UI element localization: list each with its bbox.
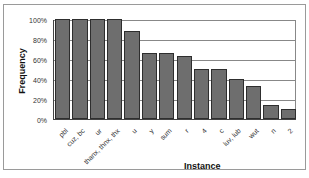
y-tick-label: 40% xyxy=(33,77,47,84)
bar-c xyxy=(211,69,226,119)
x-tick-label: ur xyxy=(94,127,103,136)
y-tick-label: 0% xyxy=(37,117,47,124)
x-axis-label: Instance xyxy=(184,161,221,171)
x-tick-label: pbl xyxy=(57,127,69,139)
bar-ur xyxy=(90,19,105,119)
bar-cuz-bc xyxy=(72,19,87,119)
bar-sum xyxy=(159,53,174,119)
y-axis-label: Frequency xyxy=(17,48,27,94)
x-tick-label: wut xyxy=(247,127,260,140)
bar-wut xyxy=(246,86,261,119)
x-tick-label: 2 xyxy=(287,127,295,135)
x-tick-label: 4 xyxy=(200,127,208,135)
x-tick-label: u xyxy=(130,127,138,135)
y-tick-label: 80% xyxy=(33,37,47,44)
x-tick-label: luv, lub xyxy=(222,127,242,147)
y-tick-label: 100% xyxy=(29,17,47,24)
bar-pbl xyxy=(55,19,70,119)
bar-n xyxy=(263,105,278,119)
x-tick-label: r xyxy=(184,127,191,134)
x-tick-label: y xyxy=(148,127,155,134)
bar-r xyxy=(177,56,192,119)
x-tick-label: c xyxy=(217,127,224,134)
bar-y xyxy=(142,53,157,119)
x-tick-label: cuz, bc xyxy=(65,127,86,148)
bar-luv-lub xyxy=(229,79,244,119)
x-tick-label: sum xyxy=(158,127,172,141)
x-tick-label: n xyxy=(269,127,277,135)
bar-2 xyxy=(281,109,296,119)
y-tick-label: 20% xyxy=(33,97,47,104)
bar-u xyxy=(124,31,139,119)
bar-4 xyxy=(194,69,209,119)
plot-area xyxy=(53,20,296,120)
chart-frame: Frequency 0%20%40%60%80%100% pblcuz, bcu… xyxy=(3,4,306,170)
bar-thanx-thnx-thx xyxy=(107,19,122,119)
y-tick-label: 60% xyxy=(33,57,47,64)
